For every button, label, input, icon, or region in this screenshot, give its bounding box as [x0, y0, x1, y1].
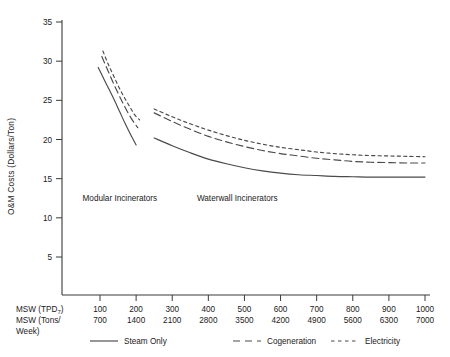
- y-tick-label: 30: [43, 57, 53, 66]
- x-axis-name-primary: MSW (TPD7): [16, 305, 64, 315]
- x-tick-label-tpd: 300: [165, 305, 179, 314]
- x-tick-label-tpd: 900: [382, 305, 396, 314]
- legend-label-electricity: Electricity: [365, 337, 401, 346]
- x-tick-label-tpd: 200: [129, 305, 143, 314]
- x-tick-label-tpd: 500: [238, 305, 252, 314]
- series-curve-steam-only-modular-incinerators: [98, 67, 136, 145]
- y-tick-label: 35: [43, 18, 53, 27]
- x-tick-label-tons-week: 2100: [163, 316, 182, 325]
- y-tick-group: 5101520253035: [43, 18, 62, 262]
- chart-annotations: Modular IncineratorsWaterwall Incinerato…: [83, 194, 278, 203]
- series-curve-cogeneration-modular-incinerators: [102, 56, 138, 127]
- x-axis-name-primary-text: MSW (TPD: [16, 305, 57, 314]
- x-tick-group: 1007002001400300210040028005003500600420…: [93, 295, 434, 325]
- chart-legend: Steam OnlyCogenerationElectricity: [90, 337, 401, 346]
- series-curve-steam-only-waterwall-incinerators: [154, 138, 425, 177]
- y-axis: 5101520253035: [43, 18, 62, 295]
- legend-label-cogeneration: Cogeneration: [267, 337, 317, 346]
- x-axis-name-block: MSW (TPD7) MSW (Tons/ Week): [16, 305, 64, 336]
- x-tick-label-tons-week: 1400: [127, 316, 146, 325]
- x-tick-label-tons-week: 7000: [416, 316, 435, 325]
- x-axis-name-primary-close: ): [61, 305, 64, 314]
- y-tick-label: 15: [43, 175, 53, 184]
- series-curve-electricity-waterwall-incinerators: [154, 109, 425, 157]
- y-tick-label: 25: [43, 96, 53, 105]
- x-tick-label-tpd: 1000: [416, 305, 435, 314]
- x-tick-label-tpd: 800: [346, 305, 360, 314]
- x-tick-label-tpd: 400: [201, 305, 215, 314]
- x-tick-label-tpd: 600: [274, 305, 288, 314]
- x-tick-label-tons-week: 5600: [344, 316, 363, 325]
- series-curve-electricity-modular-incinerators: [103, 51, 140, 120]
- x-tick-label-tons-week: 3500: [235, 316, 254, 325]
- x-axis: 1007002001400300210040028005003500600420…: [62, 295, 435, 325]
- x-tick-label-tons-week: 4200: [271, 316, 290, 325]
- legend-label-steam-only: Steam Only: [124, 337, 168, 346]
- y-tick-label: 20: [43, 136, 53, 145]
- chart-figure: 5101520253035 10070020014003002100400280…: [0, 0, 450, 357]
- x-axis-name-secondary-line1: MSW (Tons/: [16, 316, 61, 325]
- x-tick-label-tons-week: 2800: [199, 316, 218, 325]
- annotation-label: Waterwall Incinerators: [197, 194, 278, 203]
- x-tick-label-tons-week: 6300: [380, 316, 399, 325]
- x-tick-label-tpd: 100: [93, 305, 107, 314]
- y-tick-label: 5: [47, 253, 52, 262]
- data-curves: [98, 51, 425, 177]
- x-tick-label-tpd: 700: [310, 305, 324, 314]
- x-tick-label-tons-week: 4900: [308, 316, 327, 325]
- x-axis-name-secondary-line2: Week): [16, 327, 40, 336]
- y-axis-title: O&M Costs (Dollars/Ton): [6, 118, 16, 215]
- y-axis-title-text: O&M Costs (Dollars/Ton): [6, 118, 16, 215]
- y-tick-label: 10: [43, 214, 53, 223]
- annotation-label: Modular Incinerators: [83, 194, 158, 203]
- x-tick-label-tons-week: 700: [93, 316, 107, 325]
- chart-svg: 5101520253035 10070020014003002100400280…: [0, 0, 450, 357]
